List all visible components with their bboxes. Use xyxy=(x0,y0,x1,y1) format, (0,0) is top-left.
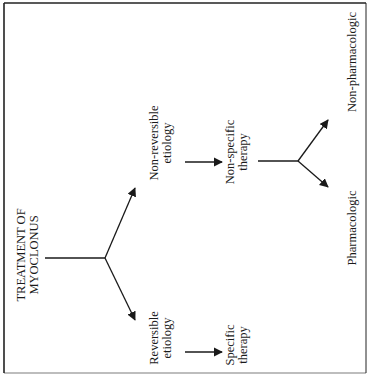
node-non-specific-line-2: therapy xyxy=(236,133,250,171)
node-specific-line-1: Specific xyxy=(223,324,237,365)
node-non-reversible-etiology: Non-reversible etiology xyxy=(147,105,174,180)
node-pharmacologic: Pharmacologic xyxy=(345,190,359,265)
therapy-branch-connector xyxy=(258,120,328,187)
title-line-1: TREATMENT OF xyxy=(14,208,28,301)
treatment-of-myoclonus-diagram: TREATMENT OF MYOCLONUS Non-reversible et… xyxy=(0,0,369,380)
node-pharmacologic-label: Pharmacologic xyxy=(345,190,359,265)
arrow-to-reversible-icon xyxy=(105,258,135,320)
node-non-specific-line-1: Non-specific xyxy=(223,119,237,184)
arrow-to-pharmacologic-icon xyxy=(298,161,328,187)
node-non-specific-therapy: Non-specific therapy xyxy=(223,119,250,184)
title-line-2: MYOCLONUS xyxy=(27,215,41,294)
node-specific-therapy: Specific therapy xyxy=(223,324,250,365)
node-reversible-line-1: Reversible xyxy=(147,311,161,365)
diagram-frame xyxy=(4,3,366,373)
node-reversible-etiology: Reversible etiology xyxy=(147,311,174,365)
node-non-reversible-line-1: Non-reversible xyxy=(147,105,161,180)
node-non-reversible-line-2: etiology xyxy=(160,122,174,164)
node-non-pharmacologic-label: Non-pharmacologic xyxy=(345,12,359,112)
diagram-title: TREATMENT OF MYOCLONUS xyxy=(14,208,41,301)
node-specific-line-2: therapy xyxy=(236,326,250,364)
arrow-to-non-pharmacologic-icon xyxy=(298,120,328,161)
arrow-to-non-reversible-icon xyxy=(105,188,135,258)
node-reversible-line-2: etiology xyxy=(160,317,174,359)
main-branch-connector xyxy=(45,188,135,320)
node-non-pharmacologic: Non-pharmacologic xyxy=(345,12,359,112)
